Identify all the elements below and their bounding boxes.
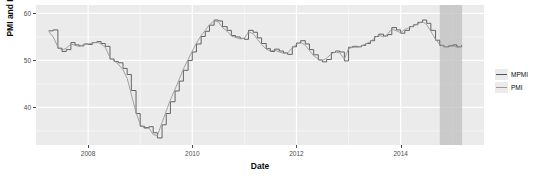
x-tick-mark [88, 145, 89, 148]
legend-key-swatch [495, 82, 508, 93]
legend-key-line [496, 87, 507, 88]
x-tick-mark [401, 145, 402, 148]
plot-panel [36, 5, 484, 145]
legend-item-pmi: PMI [495, 81, 542, 94]
major-gridlines [36, 5, 484, 145]
y-tick-label: 60 [9, 10, 31, 17]
series-line-pmi [49, 21, 462, 136]
x-tick-label: 2008 [68, 150, 108, 158]
chart-legend: MPMIPMI [495, 68, 542, 100]
minor-gridlines [36, 5, 484, 145]
legend-item-mpmi: MPMI [495, 68, 542, 81]
shaded-forecast-band [440, 5, 462, 145]
legend-label: PMI [511, 84, 523, 92]
y-tick-label: 50 [9, 57, 31, 64]
x-axis-title: Date [36, 161, 484, 171]
legend-key-swatch [495, 69, 508, 80]
data-series-layer [49, 20, 462, 138]
x-tick-label: 2014 [381, 150, 421, 158]
x-tick-label: 2012 [276, 150, 316, 158]
chart-figure: PMI and MPMI 405060 2008201020122014 Dat… [0, 0, 542, 180]
x-tick-label: 2010 [172, 150, 212, 158]
series-line-mpmi [49, 20, 462, 138]
legend-key-line [496, 74, 507, 75]
y-tick-label: 40 [9, 104, 31, 111]
legend-label: MPMI [511, 71, 528, 79]
x-tick-mark [192, 145, 193, 148]
x-tick-mark [296, 145, 297, 148]
plot-canvas [36, 5, 484, 145]
